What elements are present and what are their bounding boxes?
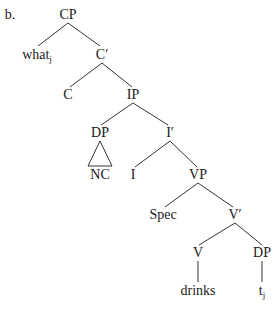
node-i: I [131,167,136,183]
node-cp: CP [59,7,76,23]
node-c-bar: C′ [96,47,108,63]
example-label: b. [5,7,16,23]
node-what: whatj [22,47,52,63]
node-drinks: drinks [181,283,216,299]
what-index: j [49,54,52,64]
node-trace: tj [259,283,265,299]
node-i-bar: I′ [166,125,174,141]
node-ip: IP [127,87,139,103]
node-v: V [193,245,203,261]
node-dp-object: DP [253,245,271,261]
node-v-bar: V′ [228,207,241,223]
trace-index: j [263,290,266,300]
node-nc: NC [90,167,109,183]
node-dp-subject: DP [91,125,109,141]
node-spec: Spec [149,207,176,223]
what-text: what [22,47,49,62]
node-c: C [63,87,72,103]
node-vp: VP [189,167,207,183]
